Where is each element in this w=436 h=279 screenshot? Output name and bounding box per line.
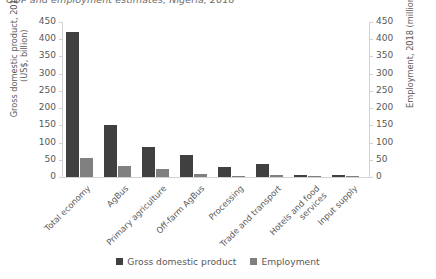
chart-legend: Gross domestic productEmployment [0, 256, 436, 267]
axis-tick-label: 400 [30, 34, 56, 43]
axis-tick-label: 400 [376, 34, 402, 43]
bar[interactable] [118, 166, 131, 177]
bar[interactable] [218, 167, 231, 177]
bar-group [104, 22, 131, 177]
axis-tick-label: 200 [30, 103, 56, 112]
bar-group [332, 22, 359, 177]
axis-tick-mark [59, 160, 62, 161]
plot-area [63, 22, 368, 177]
axis-tick-mark [59, 125, 62, 126]
axis-tick-label: 100 [376, 138, 402, 147]
bar[interactable] [80, 158, 93, 177]
axis-tick-label: 0 [376, 172, 402, 181]
chart-container: GDP and employment estimates, Nigeria, 2… [0, 0, 436, 279]
y-axis-line-right [369, 22, 370, 178]
axis-tick-mark [59, 39, 62, 40]
bar[interactable] [66, 32, 79, 177]
axis-tick-mark [370, 91, 373, 92]
axis-tick-label: 0 [30, 172, 56, 181]
axis-tick-mark [370, 39, 373, 40]
axis-tick-label: 150 [376, 120, 402, 129]
axis-tick-label: 100 [30, 138, 56, 147]
bar-group [294, 22, 321, 177]
bar-group [142, 22, 169, 177]
bar[interactable] [270, 175, 283, 177]
axis-tick-mark [59, 177, 62, 178]
bar-group [66, 22, 93, 177]
axis-tick-label: 450 [376, 17, 402, 26]
axis-tick-mark [370, 108, 373, 109]
axis-tick-label: 300 [30, 69, 56, 78]
axis-tick-mark [59, 108, 62, 109]
bar[interactable] [256, 164, 269, 177]
axis-tick-mark [59, 91, 62, 92]
legend-label: Gross domestic product [127, 256, 236, 267]
axis-tick-label: 200 [376, 103, 402, 112]
axis-tick-label: 150 [30, 120, 56, 129]
axis-tick-mark [370, 56, 373, 57]
bar[interactable] [332, 175, 345, 177]
legend-swatch-icon [116, 258, 123, 265]
axis-tick-mark [370, 125, 373, 126]
bar[interactable] [142, 147, 155, 177]
bar-group [218, 22, 245, 177]
axis-tick-mark [59, 56, 62, 57]
axis-tick-mark [59, 74, 62, 75]
axis-tick-mark [370, 22, 373, 23]
bar[interactable] [232, 176, 245, 177]
bar[interactable] [180, 155, 193, 177]
bar[interactable] [294, 175, 307, 177]
legend-item[interactable]: Employment [250, 256, 319, 267]
axis-tick-label: 300 [376, 69, 402, 78]
bar[interactable] [194, 174, 207, 177]
axis-tick-label: 50 [30, 155, 56, 164]
bar-group [180, 22, 207, 177]
axis-tick-mark [370, 160, 373, 161]
x-axis-line [63, 177, 370, 178]
axis-tick-label: 450 [30, 17, 56, 26]
bar[interactable] [104, 125, 117, 177]
axis-tick-mark [370, 74, 373, 75]
bar-group [256, 22, 283, 177]
legend-label: Employment [261, 256, 319, 267]
axis-tick-label: 250 [376, 86, 402, 95]
bar[interactable] [308, 176, 321, 177]
axis-tick-label: 350 [376, 51, 402, 60]
bar[interactable] [156, 169, 169, 177]
axis-tick-mark [59, 143, 62, 144]
axis-tick-mark [370, 143, 373, 144]
y-axis-title-left: Gross domestic product, 2018 (US$, billi… [10, 0, 29, 131]
axis-tick-mark [59, 22, 62, 23]
legend-item[interactable]: Gross domestic product [116, 256, 236, 267]
axis-tick-mark [370, 177, 373, 178]
chart-title: GDP and employment estimates, Nigeria, 2… [6, 0, 235, 5]
bar[interactable] [346, 176, 359, 177]
axis-tick-label: 250 [30, 86, 56, 95]
y-axis-title-right: Employment, 2018 (million) [406, 0, 416, 126]
axis-tick-label: 50 [376, 155, 402, 164]
axis-tick-label: 350 [30, 51, 56, 60]
legend-swatch-icon [250, 258, 257, 265]
